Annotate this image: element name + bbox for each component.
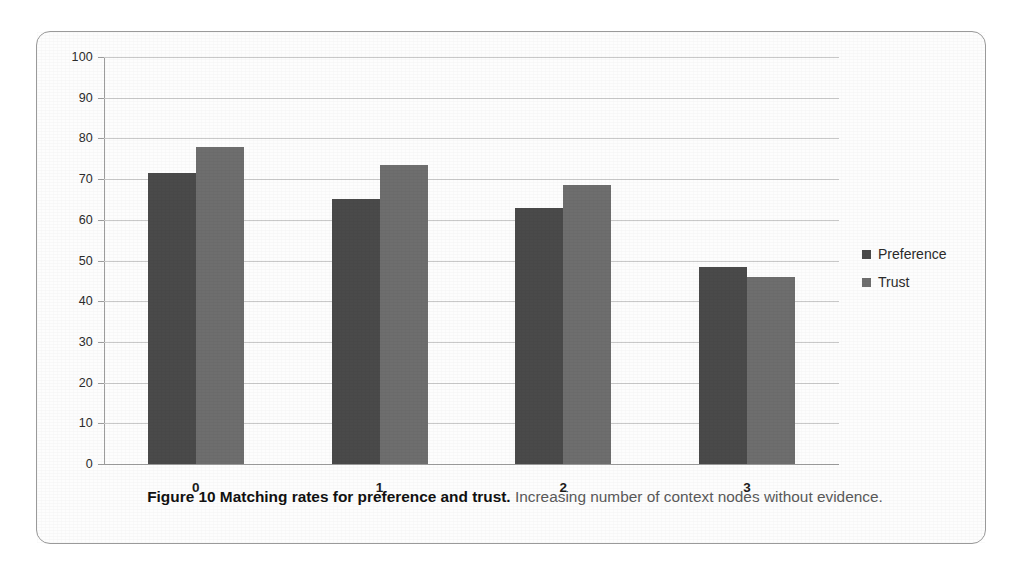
y-tick-label: 90 bbox=[79, 91, 93, 105]
y-tick-label: 70 bbox=[79, 172, 93, 186]
y-tick-label: 20 bbox=[79, 376, 93, 390]
y-tick-label: 50 bbox=[79, 254, 93, 268]
bar-preference-2 bbox=[515, 208, 563, 464]
legend-swatch-square bbox=[862, 278, 871, 287]
y-tick-label: 100 bbox=[72, 50, 93, 64]
y-tick-label: 0 bbox=[86, 457, 93, 471]
figure-caption: Figure 10 Matching rates for preference … bbox=[65, 487, 965, 506]
y-tick-mark bbox=[98, 261, 104, 262]
legend-item-trust[interactable]: Trust bbox=[862, 275, 946, 289]
figure-caption-title: Figure 10 Matching rates for preference … bbox=[147, 488, 510, 505]
y-tick-mark bbox=[98, 342, 104, 343]
bar-trust-2 bbox=[563, 185, 611, 464]
y-tick-mark bbox=[98, 57, 104, 58]
gridline bbox=[104, 464, 839, 465]
y-tick-label: 30 bbox=[79, 335, 93, 349]
y-tick-mark bbox=[98, 301, 104, 302]
bar-trust-3 bbox=[747, 277, 795, 464]
y-tick-mark bbox=[98, 423, 104, 424]
y-tick-mark bbox=[98, 383, 104, 384]
legend-swatch-square bbox=[862, 250, 871, 259]
y-tick-label: 60 bbox=[79, 213, 93, 227]
y-tick-mark bbox=[98, 98, 104, 99]
y-tick-mark bbox=[98, 220, 104, 221]
y-tick-label: 80 bbox=[79, 131, 93, 145]
legend-item-label: Trust bbox=[878, 275, 909, 289]
legend-item-preference[interactable]: Preference bbox=[862, 247, 946, 261]
bar-trust-1 bbox=[380, 165, 428, 464]
bar-preference-3 bbox=[699, 267, 747, 464]
bar-group: 2 bbox=[515, 57, 611, 464]
figure-caption-description: Increasing number of context nodes witho… bbox=[511, 488, 883, 505]
y-tick-mark bbox=[98, 464, 104, 465]
bar-group: 0 bbox=[148, 57, 244, 464]
bar-group: 1 bbox=[332, 57, 428, 464]
bar-trust-0 bbox=[196, 147, 244, 464]
plot-box: 0102030405060708090100 0123 bbox=[104, 57, 839, 464]
bar-preference-1 bbox=[332, 199, 380, 464]
bar-preference-0 bbox=[148, 173, 196, 464]
y-tick-mark bbox=[98, 179, 104, 180]
chart-legend: PreferenceTrust bbox=[862, 247, 946, 303]
y-tick-label: 10 bbox=[79, 416, 93, 430]
legend-item-label: Preference bbox=[878, 247, 946, 261]
bar-group: 3 bbox=[699, 57, 795, 464]
chart-area: 0102030405060708090100 0123 PreferenceTr… bbox=[37, 32, 987, 484]
y-tick-mark bbox=[98, 138, 104, 139]
figure-frame: 0102030405060708090100 0123 PreferenceTr… bbox=[36, 31, 986, 544]
y-tick-label: 40 bbox=[79, 294, 93, 308]
